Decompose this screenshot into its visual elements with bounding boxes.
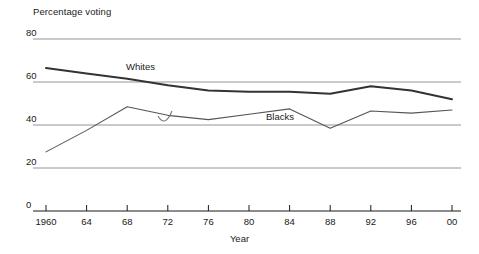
y-tick-label-80: 80: [26, 27, 48, 38]
series-label-whites: Whites: [126, 61, 155, 72]
x-tick-label-72: 72: [163, 216, 174, 227]
series-line-whites: [46, 68, 452, 99]
x-tick-label-00: 00: [447, 216, 458, 227]
x-tick-label-80: 80: [244, 216, 255, 227]
x-axis-title: Year: [0, 233, 479, 244]
y-axis-title: Percentage voting: [33, 6, 111, 17]
y-tick-label-0: 0: [26, 199, 48, 210]
x-tick-label-76: 76: [203, 216, 214, 227]
y-tick-label-40: 40: [26, 113, 48, 124]
voter-turnout-line-chart: Percentage voting Year 020406080 1960646…: [0, 0, 479, 254]
series-line-blacks: [46, 107, 452, 152]
x-tick-label-92: 92: [366, 216, 377, 227]
x-tick-label-68: 68: [122, 216, 133, 227]
x-tick-label-64: 64: [81, 216, 92, 227]
y-tick-label-60: 60: [26, 70, 48, 81]
x-tick-label-96: 96: [406, 216, 417, 227]
smudge-mark: [158, 111, 172, 121]
x-tick-label-84: 84: [284, 216, 295, 227]
series-label-blacks: Blacks: [266, 111, 294, 122]
y-tick-label-20: 20: [26, 156, 48, 167]
x-tick-label-1960: 1960: [35, 216, 56, 227]
x-tick-label-88: 88: [325, 216, 336, 227]
